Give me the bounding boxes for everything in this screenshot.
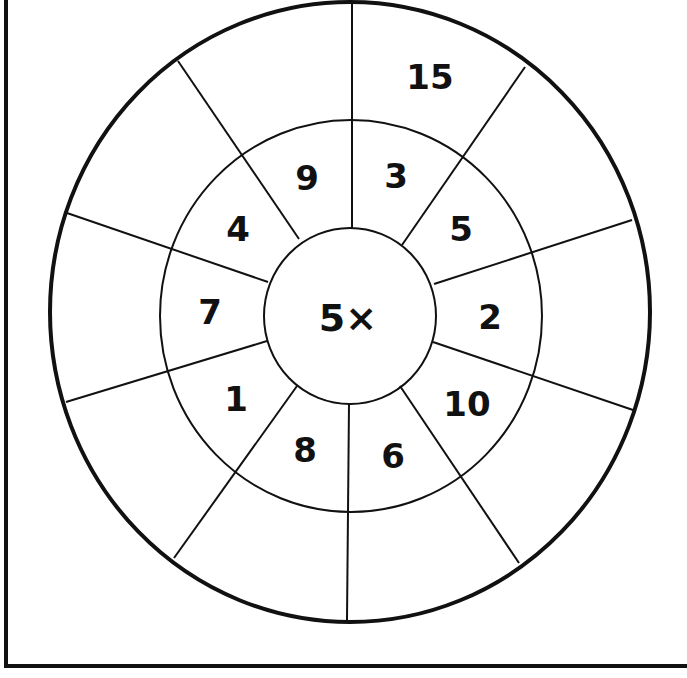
inner-cell-6: 8 (293, 430, 317, 470)
inner-cell-5: 6 (381, 436, 405, 476)
multiplication-wheel: 5× 3 5 2 10 6 8 1 7 4 9 15 (0, 0, 687, 678)
inner-cell-3: 2 (478, 297, 502, 337)
inner-cell-1: 3 (384, 156, 408, 196)
inner-cell-8: 7 (198, 292, 222, 332)
spoke-5 (347, 404, 349, 620)
outer-answer-1[interactable]: 15 (406, 57, 453, 97)
inner-cell-4: 10 (443, 384, 490, 424)
center-multiplier-label: 5× (319, 296, 377, 340)
inner-cell-10: 9 (295, 158, 319, 198)
inner-cell-2: 5 (449, 209, 473, 249)
inner-cell-9: 4 (226, 209, 250, 249)
inner-cell-7: 1 (224, 379, 248, 419)
